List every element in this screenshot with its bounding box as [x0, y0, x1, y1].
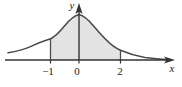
- x-tick-label-two: 2: [117, 65, 123, 77]
- x-tick-label-minus-one: −1: [42, 65, 54, 77]
- normal-distribution-figure: −1 0 2 y x: [0, 0, 182, 87]
- figure-canvas: −1 0 2 y x: [0, 0, 182, 87]
- shaded-area-region: [51, 15, 121, 60]
- x-axis-label: x: [169, 62, 175, 74]
- x-tick-label-zero: 0: [74, 65, 80, 77]
- y-axis-label: y: [69, 0, 75, 11]
